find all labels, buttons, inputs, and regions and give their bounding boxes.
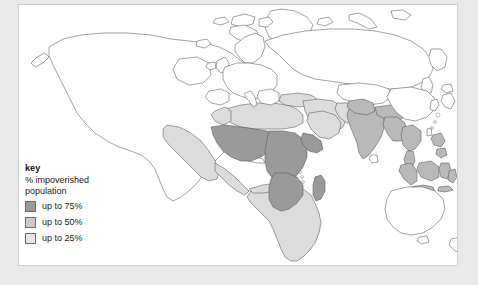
region-central-america [215, 163, 249, 195]
region-tasmania [417, 236, 429, 244]
region-borneo [417, 161, 439, 181]
legend-item-medium: up to 50% [25, 217, 137, 228]
legend-subtitle: % impoverished population [25, 175, 137, 196]
region-caribbean-islet-b [301, 176, 304, 179]
region-indochina [401, 125, 421, 151]
legend-swatch-low [25, 233, 36, 244]
region-arctic-islands-c [213, 17, 229, 25]
region-korea [430, 99, 439, 111]
region-north-africa [225, 103, 303, 129]
legend-item-low: up to 25% [25, 233, 137, 244]
region-sri-lanka [369, 155, 378, 163]
region-new-zealand-south [449, 237, 457, 253]
region-caribbean-islet-c [302, 181, 305, 184]
legend-title: key [25, 163, 137, 174]
legend-label-high: up to 75% [42, 201, 83, 212]
region-papua-new-guinea [448, 169, 457, 183]
legend-subtitle-line2: population [25, 186, 67, 196]
region-japan-kyushu [436, 113, 440, 117]
region-ryukyu-islet-a [434, 121, 437, 124]
region-philippines-b [436, 148, 447, 158]
legend-swatch-high [25, 201, 36, 212]
region-japan-honshu [441, 93, 455, 109]
region-svalbard [317, 17, 333, 26]
region-arctic-islands-d [391, 10, 411, 20]
map-legend: key % impoverished population up to 75% … [25, 163, 137, 249]
legend-swatch-medium [25, 217, 36, 228]
legend-label-low: up to 25% [42, 233, 83, 244]
region-madagascar [313, 175, 325, 201]
map-frame: key % impoverished population up to 75% … [18, 4, 458, 266]
region-lesser-sunda [438, 186, 453, 192]
figure-container: key % impoverished population up to 75% … [0, 0, 478, 285]
legend-item-high: up to 75% [25, 201, 137, 212]
region-novaya-zemlya [349, 13, 377, 29]
region-alaska-peninsula [31, 53, 49, 67]
legend-label-medium: up to 50% [42, 217, 83, 228]
region-russia [265, 29, 433, 89]
region-sumatra [399, 163, 417, 185]
region-australia [385, 187, 445, 235]
region-japan-hokkaido [441, 84, 453, 93]
region-philippines-a [431, 133, 445, 147]
legend-subtitle-line1: % impoverished [25, 175, 89, 185]
region-taiwan [427, 128, 432, 136]
